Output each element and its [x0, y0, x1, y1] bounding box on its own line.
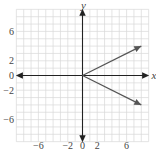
x-tick-label: 0	[80, 140, 85, 151]
coordinate-plane: −6−2026620−2−6yx	[0, 0, 156, 152]
y-tick-label: 6	[9, 26, 14, 37]
axes	[16, 9, 149, 142]
y-tick-label: −6	[3, 114, 14, 125]
x-tick-label: 6	[124, 140, 129, 151]
x-axis-right-arrow-icon	[142, 72, 149, 78]
x-axis-left-arrow-icon	[16, 72, 23, 78]
x-axis-label: x	[151, 69, 157, 81]
y-tick-label: −2	[3, 85, 14, 96]
x-tick-label: 2	[95, 140, 100, 151]
y-axis-label: y	[80, 0, 86, 11]
x-tick-label: −6	[33, 140, 44, 151]
y-tick-label: 0	[9, 70, 14, 81]
y-tick-label: 2	[9, 55, 14, 66]
x-tick-label: −2	[62, 140, 73, 151]
